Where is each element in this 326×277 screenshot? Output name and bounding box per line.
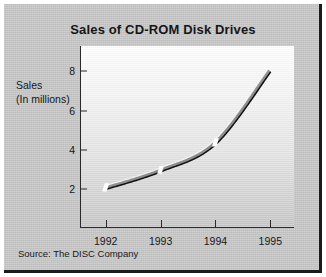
y-axis-title-line-1: Sales: [16, 78, 70, 92]
x-tick-label: 1995: [259, 235, 282, 247]
y-axis-title: Sales (In millions): [16, 78, 70, 106]
x-tick-label: 1992: [94, 235, 117, 247]
chart-title: Sales of CD-ROM Disk Drives: [4, 22, 322, 37]
chart-screenshot: Sales of CD-ROM Disk Drives Sales (In mi…: [0, 0, 326, 277]
y-tick-label: 4: [69, 144, 75, 156]
y-tick-label: 8: [69, 65, 75, 77]
plot-area: 2468 1992199319941995: [80, 46, 294, 228]
y-tick-label: 6: [69, 105, 75, 117]
source-note: Source: The DISC Company: [18, 248, 138, 259]
chart-plate: Sales of CD-ROM Disk Drives Sales (In mi…: [4, 4, 322, 273]
data-series-curve: [81, 46, 295, 228]
x-tick-label: 1994: [204, 235, 227, 247]
y-axis-title-line-2: (In millions): [16, 92, 70, 106]
y-tick-label: 2: [69, 183, 75, 195]
x-tick-label: 1993: [149, 235, 172, 247]
